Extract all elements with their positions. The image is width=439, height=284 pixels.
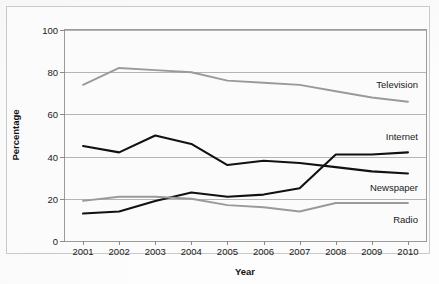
y-tick-mark-0 — [60, 241, 65, 242]
series-line-internet — [83, 152, 408, 213]
x-tick-mark-2007 — [300, 241, 301, 245]
x-axis-title: Year — [235, 266, 255, 277]
x-tick-mark-2002 — [119, 241, 120, 245]
x-tick-label-2007: 2007 — [289, 246, 310, 257]
x-tick-mark-2003 — [155, 241, 156, 245]
series-label-internet: Internet — [386, 131, 418, 142]
x-tick-label-2006: 2006 — [253, 246, 274, 257]
x-tick-label-2002: 2002 — [109, 246, 130, 257]
chart-screenshot: nited news source are there or more spec… — [0, 0, 439, 284]
chart-frame: Percentage Year 020406080100200120022003… — [6, 6, 430, 254]
x-tick-label-2009: 2009 — [361, 246, 382, 257]
series-line-television — [83, 68, 408, 102]
series-label-radio: Radio — [393, 214, 418, 225]
y-axis-title: Percentage — [10, 109, 21, 160]
y-tick-label-40: 40 — [47, 151, 58, 162]
series-label-television: Television — [376, 78, 418, 89]
x-tick-label-2010: 2010 — [397, 246, 418, 257]
x-tick-label-2004: 2004 — [181, 246, 202, 257]
x-tick-mark-2005 — [227, 241, 228, 245]
x-tick-mark-2004 — [191, 241, 192, 245]
y-tick-label-20: 20 — [47, 193, 58, 204]
x-tick-mark-2010 — [408, 241, 409, 245]
y-tick-label-60: 60 — [47, 109, 58, 120]
x-tick-mark-2008 — [336, 241, 337, 245]
x-tick-mark-2009 — [372, 241, 373, 245]
y-tick-label-0: 0 — [53, 236, 58, 247]
x-tick-label-2005: 2005 — [217, 246, 238, 257]
y-tick-label-100: 100 — [42, 25, 58, 36]
y-tick-label-80: 80 — [47, 67, 58, 78]
series-line-radio — [83, 197, 408, 212]
x-tick-mark-2006 — [264, 241, 265, 245]
x-tick-label-2003: 2003 — [145, 246, 166, 257]
series-lines — [65, 30, 426, 241]
x-tick-mark-2001 — [83, 241, 84, 245]
x-tick-label-2008: 2008 — [325, 246, 346, 257]
x-tick-label-2001: 2001 — [72, 246, 93, 257]
series-label-newspaper: Newspaper — [370, 182, 418, 193]
plot-area: 0204060801002001200220032004200520062007… — [64, 29, 427, 242]
